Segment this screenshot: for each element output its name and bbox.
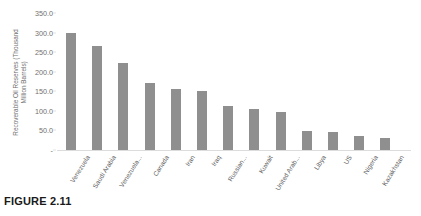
bar — [66, 33, 76, 150]
y-axis-tick-mark — [53, 110, 56, 111]
y-axis-ticks: 350.0300.0250.0200.0150.0100.050.0- — [0, 0, 53, 163]
y-axis-tick-mark — [53, 91, 56, 92]
y-axis-tick-mark — [53, 130, 56, 131]
bar — [145, 83, 155, 150]
bar — [223, 106, 233, 150]
x-axis-category-label: Russian... — [227, 154, 248, 183]
y-axis-tick-mark — [53, 150, 56, 151]
x-axis-category-label: Venezuela — [69, 154, 91, 184]
y-axis-tick-label: 250.0 — [9, 48, 53, 57]
y-axis-tick-label: 50.0 — [9, 126, 53, 135]
bar — [197, 91, 207, 150]
bar — [171, 89, 181, 150]
plot-area — [57, 13, 411, 150]
bar — [276, 112, 286, 150]
y-axis-tick-label: 100.0 — [9, 106, 53, 115]
bar — [249, 109, 259, 150]
x-axis-category-label: Iran — [184, 154, 196, 167]
x-axis-category-label: United Arab... — [273, 154, 300, 192]
x-axis-category-label: Nigeria — [362, 154, 379, 175]
bar — [354, 136, 364, 150]
y-axis-tick-mark — [53, 52, 56, 53]
x-axis-category-label: Saudi Arabia — [91, 154, 117, 189]
y-axis-tick-label: 200.0 — [9, 67, 53, 76]
x-axis-category-label: Libya — [312, 154, 326, 171]
y-axis-tick-mark — [53, 13, 56, 14]
figure-container: Recoverable Oil Reserves (Thousand Milli… — [0, 0, 421, 216]
y-axis-tick-label: 150.0 — [9, 87, 53, 96]
bar — [302, 131, 312, 150]
x-axis-category-label: Kazakhstan — [381, 154, 405, 187]
y-axis-tick-mark — [53, 32, 56, 33]
x-axis-category-label: Kuwait — [258, 154, 274, 174]
bar — [118, 63, 128, 150]
bar-series — [57, 13, 411, 150]
x-axis-category-label: US — [342, 154, 353, 165]
x-axis-category-label: Canada — [151, 154, 169, 177]
y-axis-tick-label: 300.0 — [9, 28, 53, 37]
y-axis-tick-label: 350.0 — [9, 9, 53, 18]
bar — [328, 132, 338, 150]
bar — [92, 46, 102, 150]
x-axis-line — [57, 150, 411, 151]
x-axis-category-label: Iraq — [210, 154, 222, 167]
y-axis-tick-mark — [53, 71, 56, 72]
bar — [380, 138, 390, 150]
x-axis-category-label: Venezuela... — [118, 154, 143, 188]
figure-caption: FIGURE 2.11 — [4, 195, 72, 207]
